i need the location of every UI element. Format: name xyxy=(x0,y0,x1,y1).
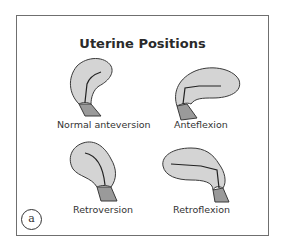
label-anteflexion: Anteflexion xyxy=(174,119,228,130)
figure-frame: Uterine Positions Normal anteversion Ant… xyxy=(16,15,269,236)
label-retroflexion: Retroflexion xyxy=(173,204,230,215)
retroflexion-illustration xyxy=(157,144,237,202)
normal-anteversion-illustration xyxy=(61,56,131,118)
retroversion-illustration xyxy=(65,137,135,201)
label-normal-anteversion: Normal anteversion xyxy=(57,119,151,130)
panel-label-circle: a xyxy=(21,209,42,230)
label-retroversion: Retroversion xyxy=(73,204,133,215)
anteflexion-illustration xyxy=(169,64,249,120)
figure-title: Uterine Positions xyxy=(17,36,268,51)
